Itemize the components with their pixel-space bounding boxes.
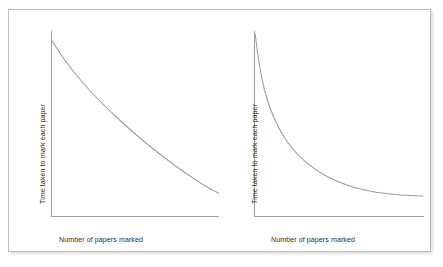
chart-right-x-axis-label: Number of papers marked [271, 237, 355, 244]
charts-row: Number of papers marked Time taken to ma… [9, 10, 430, 251]
figure-root: Number of papers marked Time taken to ma… [0, 0, 443, 267]
chart-right-curve [255, 34, 423, 196]
chart-left: Number of papers marked Time taken to ma… [13, 10, 223, 251]
chart-left-y-axis-label: Time taken to mark each paper [40, 104, 47, 204]
chart-left-x-axis-label: Number of papers marked [59, 237, 143, 244]
chart-right-y-axis-label: Time taken to mark each paper [252, 104, 259, 204]
figure-panel: Number of papers marked Time taken to ma… [8, 9, 431, 252]
chart-left-curve [52, 41, 218, 193]
chart-right: Number of papers marked Time taken to ma… [223, 10, 432, 251]
